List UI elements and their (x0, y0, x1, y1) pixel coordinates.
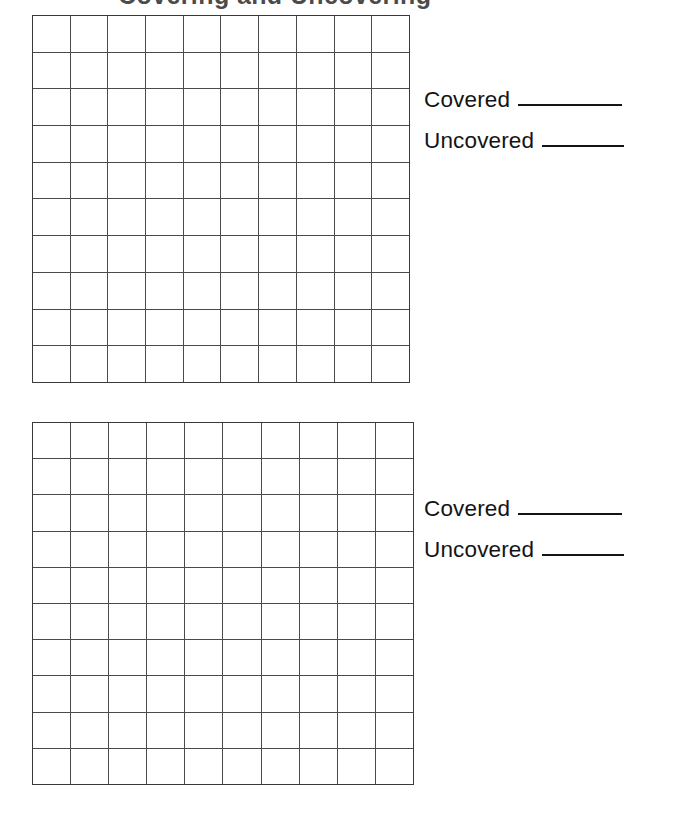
grid-cell[interactable] (183, 52, 221, 89)
grid-cell[interactable] (33, 640, 71, 676)
grid-cell[interactable] (299, 567, 337, 603)
grid-cell[interactable] (375, 495, 413, 531)
grid-cell[interactable] (33, 676, 71, 712)
grid-cell[interactable] (375, 640, 413, 676)
grid-cell[interactable] (299, 640, 337, 676)
grid-cell[interactable] (109, 567, 147, 603)
grid-cell[interactable] (299, 423, 337, 459)
grid-cell[interactable] (261, 640, 299, 676)
grid-cell[interactable] (146, 52, 184, 89)
grid-cell[interactable] (33, 272, 71, 309)
grid-cell[interactable] (146, 199, 184, 236)
grid-cell[interactable] (183, 126, 221, 163)
grid-row[interactable] (33, 676, 414, 712)
grid-cell[interactable] (221, 236, 259, 273)
grid-cell[interactable] (147, 495, 185, 531)
grid-cell[interactable] (221, 89, 259, 126)
grid-row[interactable] (33, 272, 410, 309)
grid-cell[interactable] (259, 16, 297, 53)
grid-cell[interactable] (108, 346, 146, 383)
grid-cell[interactable] (372, 236, 410, 273)
grid-cell[interactable] (185, 531, 223, 567)
grid-cell[interactable] (183, 346, 221, 383)
grid-cell[interactable] (33, 52, 71, 89)
grid-cell[interactable] (147, 603, 185, 639)
grid-cell[interactable] (261, 603, 299, 639)
grid-cell[interactable] (71, 676, 109, 712)
grid-cell[interactable] (337, 495, 375, 531)
grid-cell[interactable] (185, 603, 223, 639)
grid-row[interactable] (33, 309, 410, 346)
grid-cell[interactable] (33, 495, 71, 531)
grid-cell[interactable] (33, 309, 71, 346)
grid-cell[interactable] (223, 459, 261, 495)
grid-cell[interactable] (71, 603, 109, 639)
grid-cell[interactable] (33, 89, 71, 126)
grid-cell[interactable] (259, 162, 297, 199)
grid-cell[interactable] (259, 346, 297, 383)
grid-cell[interactable] (70, 162, 108, 199)
grid-cell[interactable] (259, 126, 297, 163)
grid-cell[interactable] (147, 748, 185, 784)
grid-cell[interactable] (296, 199, 334, 236)
grid-cell[interactable] (299, 748, 337, 784)
grid-cell[interactable] (146, 16, 184, 53)
grid-cell[interactable] (70, 16, 108, 53)
grid-row[interactable] (33, 126, 410, 163)
grid-cell[interactable] (146, 346, 184, 383)
grid-cell[interactable] (221, 309, 259, 346)
grid-cell[interactable] (183, 162, 221, 199)
grid-row[interactable] (33, 346, 410, 383)
grid-cell[interactable] (70, 309, 108, 346)
grid-cell[interactable] (223, 567, 261, 603)
grid-cell[interactable] (375, 748, 413, 784)
grid-cell[interactable] (334, 89, 372, 126)
grid-table-2[interactable] (32, 422, 414, 785)
grid-cell[interactable] (223, 531, 261, 567)
grid-cell[interactable] (337, 748, 375, 784)
grid-cell[interactable] (223, 423, 261, 459)
grid-cell[interactable] (259, 236, 297, 273)
grid-cell[interactable] (375, 459, 413, 495)
grid-cell[interactable] (109, 640, 147, 676)
grid-cell[interactable] (334, 162, 372, 199)
grid-cell[interactable] (259, 52, 297, 89)
grid-cell[interactable] (108, 89, 146, 126)
grid-cell[interactable] (33, 236, 71, 273)
grid-cell[interactable] (185, 423, 223, 459)
grid-cell[interactable] (109, 676, 147, 712)
grid-cell[interactable] (70, 199, 108, 236)
grid-cell[interactable] (221, 16, 259, 53)
grid-cell[interactable] (375, 712, 413, 748)
grid-cell[interactable] (71, 712, 109, 748)
grid-cell[interactable] (259, 199, 297, 236)
grid-cell[interactable] (334, 309, 372, 346)
grid-cell[interactable] (299, 603, 337, 639)
grid-cell[interactable] (109, 531, 147, 567)
grid-cell[interactable] (223, 640, 261, 676)
grid-cell[interactable] (147, 567, 185, 603)
grid-cell[interactable] (33, 16, 71, 53)
grid-cell[interactable] (109, 748, 147, 784)
grid-cell[interactable] (33, 603, 71, 639)
grid-cell[interactable] (33, 126, 71, 163)
grid-cell[interactable] (375, 423, 413, 459)
grid-cell[interactable] (70, 52, 108, 89)
grid-cell[interactable] (296, 236, 334, 273)
grid-cell[interactable] (337, 712, 375, 748)
grid-cell[interactable] (147, 640, 185, 676)
grid-cell[interactable] (147, 459, 185, 495)
grid-cell[interactable] (299, 495, 337, 531)
grid-cell[interactable] (372, 162, 410, 199)
grid-cell[interactable] (146, 162, 184, 199)
grid-cell[interactable] (337, 640, 375, 676)
grid-cell[interactable] (109, 603, 147, 639)
grid-cell[interactable] (146, 126, 184, 163)
grid-cell[interactable] (183, 16, 221, 53)
grid-row[interactable] (33, 603, 414, 639)
grid-cell[interactable] (261, 748, 299, 784)
grid-cell[interactable] (147, 423, 185, 459)
grid-cell[interactable] (108, 199, 146, 236)
grid-cell[interactable] (33, 199, 71, 236)
grid-cell[interactable] (185, 640, 223, 676)
